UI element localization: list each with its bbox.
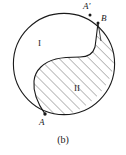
figure-caption: (b) xyxy=(0,134,126,145)
figure-container: I II A A′ B (b) xyxy=(0,0,126,155)
point-a-label: A xyxy=(39,118,45,127)
point-b-label: B xyxy=(101,14,107,23)
point-a-marker xyxy=(43,112,46,115)
point-b-marker xyxy=(97,22,100,25)
region-two-label: II xyxy=(74,84,80,93)
region-one-label: I xyxy=(38,39,41,48)
point-a-prime-label: A′ xyxy=(83,2,90,11)
point-a-prime-marker xyxy=(89,14,92,17)
figure-drawing xyxy=(0,0,126,155)
